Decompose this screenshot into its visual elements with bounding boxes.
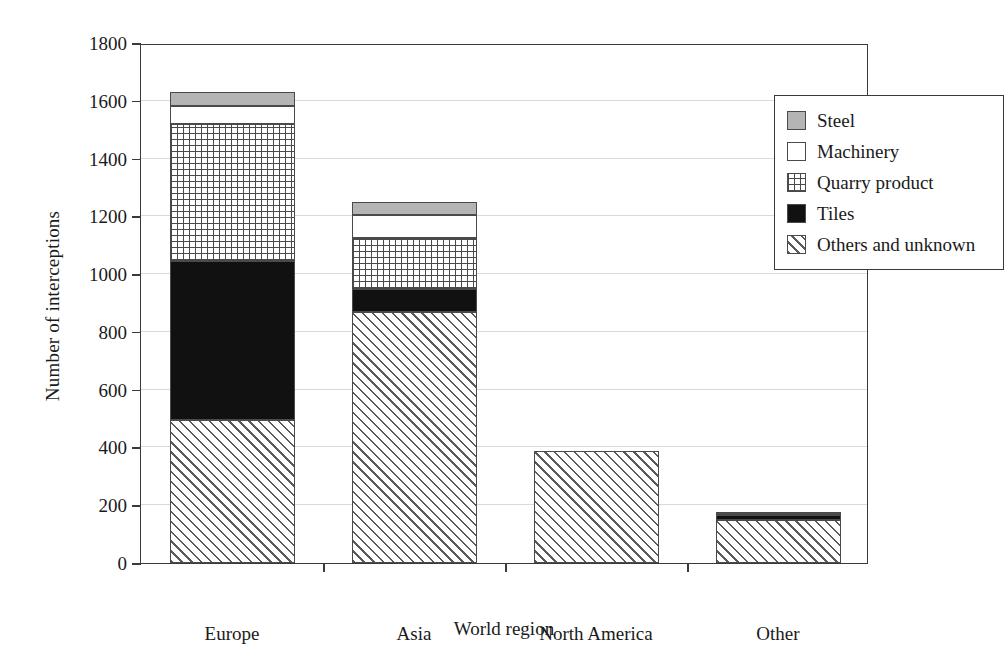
legend-item[interactable]: Others and unknown (787, 229, 993, 260)
y-tick-mark (132, 43, 141, 45)
y-tick-label: 1000 (9, 265, 127, 284)
y-tick-mark (132, 101, 141, 103)
y-tick-label: 800 (9, 322, 127, 341)
y-tick-label: 1400 (9, 149, 127, 168)
legend-swatch-icon (787, 173, 806, 192)
x-tick-mark (687, 563, 689, 572)
legend-item[interactable]: Tiles (787, 198, 993, 229)
y-tick-mark (132, 332, 141, 334)
x-tick-mark (505, 563, 507, 572)
y-tick-mark (132, 390, 141, 392)
y-tick-mark (132, 563, 141, 565)
y-tick-mark (132, 274, 141, 276)
legend-swatch-icon (787, 111, 806, 130)
y-tick-label: 400 (9, 438, 127, 457)
legend-swatch-icon (787, 142, 806, 161)
y-tick-label: 600 (9, 380, 127, 399)
legend-label: Quarry product (817, 173, 934, 192)
legend-label: Tiles (817, 204, 854, 223)
bar-north-america[interactable] (534, 43, 659, 563)
legend-item[interactable]: Quarry product (787, 167, 993, 198)
legend-label: Steel (817, 111, 855, 130)
bar-segment[interactable] (170, 92, 295, 106)
bar-segment[interactable] (352, 312, 477, 563)
bar-segment[interactable] (716, 512, 841, 515)
y-tick-mark (132, 216, 141, 218)
y-tick-mark (132, 159, 141, 161)
bar-segment[interactable] (716, 520, 841, 563)
x-axis-label: World region (140, 618, 868, 640)
bar-segment[interactable] (352, 215, 477, 238)
bar-segment[interactable] (170, 106, 295, 124)
bar-segment[interactable] (352, 238, 477, 289)
y-tick-mark (132, 447, 141, 449)
bar-segment[interactable] (716, 515, 841, 520)
x-tick-mark (323, 563, 325, 572)
bar-segment[interactable] (534, 451, 659, 563)
legend-swatch-icon (787, 204, 806, 223)
legend-item[interactable]: Steel (787, 105, 993, 136)
y-tick-label: 200 (9, 496, 127, 515)
bar-segment[interactable] (352, 289, 477, 312)
bar-segment[interactable] (170, 124, 295, 261)
bar-segment[interactable] (352, 202, 477, 215)
plot-area: 020040060080010001200140016001800 Europe… (140, 44, 868, 564)
y-tick-label: 1600 (9, 91, 127, 110)
bar-europe[interactable] (170, 43, 295, 563)
legend-swatch-icon (787, 235, 806, 254)
legend-label: Others and unknown (817, 235, 975, 254)
bar-segment[interactable] (170, 261, 295, 420)
bar-asia[interactable] (352, 43, 477, 563)
y-tick-label: 1800 (9, 34, 127, 53)
y-tick-label: 0 (9, 554, 127, 573)
legend-item[interactable]: Machinery (787, 136, 993, 167)
y-tick-label: 1200 (9, 207, 127, 226)
legend-label: Machinery (817, 142, 899, 161)
y-tick-mark (132, 505, 141, 507)
legend: SteelMachineryQuarry productTilesOthers … (774, 95, 1004, 270)
bar-segment[interactable] (170, 420, 295, 563)
